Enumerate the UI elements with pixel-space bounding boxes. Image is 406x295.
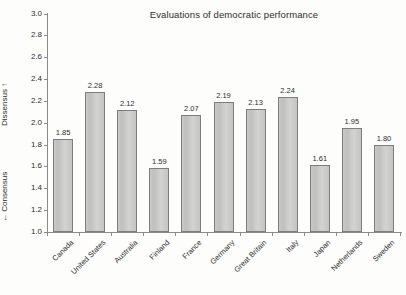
y-tick-label: 2.6: [31, 52, 42, 61]
bar: [181, 115, 201, 232]
bar-value-label: 2.07: [175, 104, 207, 113]
x-tick-mark: [207, 233, 208, 236]
y-tick-label: 1.0: [31, 227, 42, 236]
y-tick-label: 2.4: [31, 74, 42, 83]
bar-value-label: 1.85: [47, 128, 79, 137]
y-tick-mark: [44, 145, 47, 146]
y-tick-label: 2.2: [31, 96, 42, 105]
bar: [149, 168, 169, 232]
y-tick-mark: [44, 123, 47, 124]
y-tick-mark: [44, 35, 47, 36]
x-tick-mark: [175, 233, 176, 236]
bar: [117, 110, 137, 232]
x-tick-mark: [272, 233, 273, 236]
bar: [310, 165, 330, 232]
y-tick-mark: [44, 210, 47, 211]
y-tick-label: 3.0: [31, 9, 42, 18]
y-tick-mark: [44, 101, 47, 102]
bar: [53, 139, 73, 232]
y-tick-label: 2.0: [31, 118, 42, 127]
y-tick-label: 2.8: [31, 30, 42, 39]
x-tick-mark: [400, 233, 401, 236]
y-tick: 2.2: [0, 101, 47, 102]
y-tick: 2.0: [0, 123, 47, 124]
y-tick-label: 1.2: [31, 205, 42, 214]
x-tick-mark: [336, 233, 337, 236]
y-tick-mark: [44, 14, 47, 15]
bar-value-label: 1.59: [143, 157, 175, 166]
bar-value-label: 2.24: [272, 86, 304, 95]
bar: [214, 102, 234, 232]
bar-value-label: 2.12: [111, 99, 143, 108]
bar: [342, 128, 362, 232]
y-tick-label: 1.4: [31, 183, 42, 192]
y-tick-mark: [44, 166, 47, 167]
category-label: Canada: [20, 238, 76, 294]
chart-title: Evaluations of democratic performance: [60, 9, 406, 20]
bar-value-label: 2.13: [240, 98, 272, 107]
y-tick: 2.4: [0, 79, 47, 80]
y-tick: 1.6: [0, 166, 47, 167]
y-tick-mark: [44, 79, 47, 80]
y-tick-mark: [44, 57, 47, 58]
bar: [278, 97, 298, 232]
bar-value-label: 1.80: [368, 134, 400, 143]
x-tick-mark: [143, 233, 144, 236]
y-tick-mark: [44, 188, 47, 189]
x-axis-line: [47, 232, 402, 233]
bar: [246, 109, 266, 232]
y-tick: 1.8: [0, 145, 47, 146]
y-tick: 3.0: [0, 14, 47, 15]
x-tick-mark: [47, 233, 48, 236]
y-tick: 2.8: [0, 35, 47, 36]
y-axis-label-consensus: ← Consensus: [0, 82, 14, 222]
bar-value-label: 2.28: [79, 81, 111, 90]
bar: [85, 92, 105, 232]
y-tick: 2.6: [0, 57, 47, 58]
x-tick-mark: [304, 233, 305, 236]
y-tick-label: 1.8: [31, 140, 42, 149]
x-tick-mark: [111, 233, 112, 236]
chart-figure: Evaluations of democratic performance Di…: [0, 0, 406, 295]
bar-value-label: 1.95: [336, 117, 368, 126]
bar: [374, 145, 394, 232]
y-tick: 1.2: [0, 210, 47, 211]
bar-value-label: 2.19: [208, 91, 240, 100]
y-tick: 1.0: [0, 232, 47, 233]
y-axis-line: [47, 13, 48, 233]
x-tick-mark: [79, 233, 80, 236]
x-tick-mark: [368, 233, 369, 236]
y-tick-label: 1.6: [31, 161, 42, 170]
bar-value-label: 1.61: [304, 154, 336, 163]
x-tick-mark: [240, 233, 241, 236]
y-tick: 1.4: [0, 188, 47, 189]
